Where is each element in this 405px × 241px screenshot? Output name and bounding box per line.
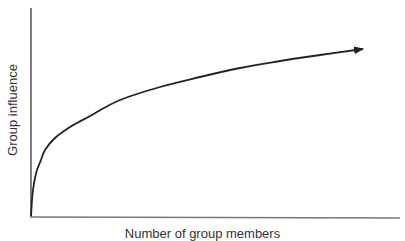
x-axis bbox=[30, 217, 400, 218]
x-axis-label: Number of group members bbox=[0, 226, 405, 241]
y-axis-label-container: Group influence bbox=[0, 0, 24, 234]
y-axis-label: Group influence bbox=[5, 64, 20, 156]
influence-curve bbox=[31, 49, 363, 216]
